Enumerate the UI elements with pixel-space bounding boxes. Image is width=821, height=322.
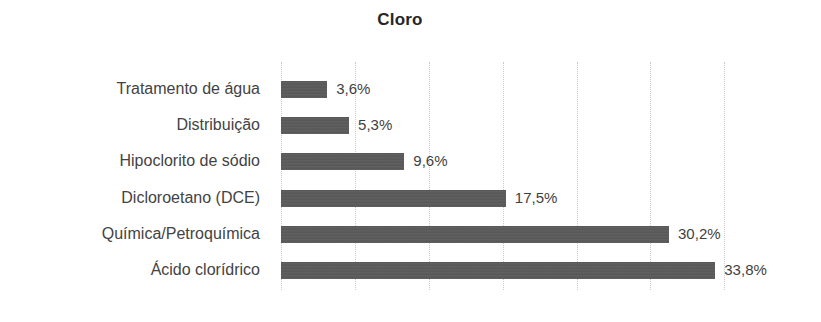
bar-row: 30,2% [281,226,732,243]
bar-row: 33,8% [281,262,732,279]
plot-area: 3,6%5,3%9,6%17,5%30,2%33,8% [281,62,732,290]
bar[interactable] [281,117,349,134]
category-axis-labels: Tratamento de águaDistribuiçãoHipoclorit… [0,62,271,290]
bars-layer: 3,6%5,3%9,6%17,5%30,2%33,8% [281,62,732,290]
category-label: Tratamento de água [0,80,260,98]
bar-row: 9,6% [281,153,732,170]
bar-value-label: 5,3% [358,116,392,134]
bar-value-label: 33,8% [724,261,767,279]
chart-figure: Cloro Tratamento de águaDistribuiçãoHipo… [0,0,821,322]
bar[interactable] [281,262,715,279]
bar-value-label: 17,5% [515,189,558,207]
category-label: Dicloroetano (DCE) [0,189,260,207]
bar[interactable] [281,153,404,170]
category-label: Química/Petroquímica [0,225,260,243]
category-label: Hipoclorito de sódio [0,152,260,170]
bar-value-label: 3,6% [336,80,370,98]
bar-value-label: 30,2% [678,225,721,243]
bar[interactable] [281,81,327,98]
category-label: Ácido clorídrico [0,261,260,279]
bar[interactable] [281,190,506,207]
bar-row: 17,5% [281,190,732,207]
bar[interactable] [281,226,669,243]
bar-row: 3,6% [281,81,732,98]
bar-row: 5,3% [281,117,732,134]
bar-value-label: 9,6% [413,152,447,170]
chart-title: Cloro [0,10,800,30]
category-label: Distribuição [0,116,260,134]
